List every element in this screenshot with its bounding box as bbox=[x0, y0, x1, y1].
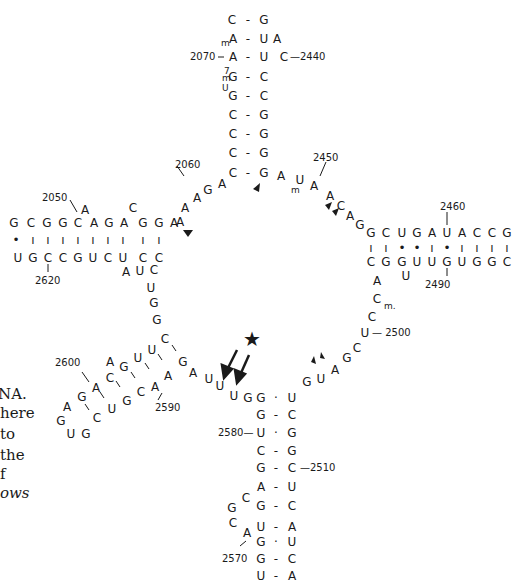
nucleotide: C bbox=[288, 500, 296, 512]
nucleotide: C bbox=[137, 386, 145, 398]
position-label: —2510 bbox=[300, 463, 335, 473]
nucleotide: G bbox=[42, 217, 51, 229]
base-pair-mark: ı bbox=[384, 242, 387, 254]
nucleotide: U bbox=[458, 256, 467, 268]
nucleotide: U bbox=[428, 256, 437, 268]
nucleotide: G bbox=[152, 314, 161, 326]
leader-2570 bbox=[240, 541, 246, 546]
base-pair-mark: - bbox=[274, 553, 278, 565]
nucleotide: G bbox=[259, 167, 268, 179]
nucleotide: C bbox=[228, 14, 236, 26]
rrna-structure-diagram: ★ CGAUAAUCGCGCCGCGCGCGAGAAAAUAACAGGCGGCA… bbox=[0, 0, 515, 586]
nucleotide: C bbox=[382, 227, 390, 239]
nucleotide: A bbox=[326, 190, 334, 202]
caption-fragment: the bbox=[0, 446, 25, 464]
modification-mark: m bbox=[291, 186, 300, 195]
nucleotide: G bbox=[256, 409, 265, 421]
triangle-marker-icon bbox=[311, 356, 316, 364]
nucleotide: U bbox=[257, 570, 266, 582]
nucleotide: C bbox=[129, 202, 137, 214]
cleavage-markers bbox=[183, 183, 339, 364]
base-pair-mark: ı bbox=[475, 242, 478, 254]
base-pair-mark: - bbox=[246, 128, 250, 140]
nucleotide: G bbox=[73, 252, 82, 264]
caption-fragment: ows bbox=[0, 484, 30, 502]
base-pair-mark: · bbox=[274, 392, 278, 404]
nucleotide: A bbox=[346, 210, 354, 222]
nucleotide: C bbox=[229, 517, 237, 529]
base-pair-mark: - bbox=[246, 51, 250, 63]
leader-2600 bbox=[82, 372, 89, 382]
nucleotide: G bbox=[397, 256, 406, 268]
position-label: 2060 bbox=[175, 160, 200, 170]
nucleotide: G bbox=[412, 227, 421, 239]
nucleotide: G bbox=[366, 227, 375, 239]
nucleotide: U bbox=[260, 51, 269, 63]
nucleotide: C bbox=[229, 128, 237, 140]
nucleotide: A bbox=[63, 401, 71, 413]
nucleotide: C bbox=[161, 333, 169, 345]
nucleotide: G bbox=[287, 427, 296, 439]
modification-mark: m. bbox=[384, 302, 396, 311]
nucleotide: G bbox=[256, 392, 265, 404]
nucleotide: G bbox=[227, 502, 236, 514]
nucleotide: G bbox=[302, 376, 311, 388]
nucleotide: C bbox=[488, 227, 496, 239]
position-label: — 2500 bbox=[372, 328, 411, 338]
nucleotide: C bbox=[59, 252, 67, 264]
nucleotide: A bbox=[288, 570, 296, 582]
nucleotide: C bbox=[473, 227, 481, 239]
base-pair-mark: ı bbox=[141, 234, 144, 246]
nucleotide: U bbox=[288, 481, 297, 493]
nucleotide: U bbox=[398, 227, 407, 239]
nucleotide: U bbox=[108, 403, 117, 415]
base-pair-mark: ı bbox=[31, 234, 34, 246]
base-pair-mark: - bbox=[274, 481, 278, 493]
nucleotide: G bbox=[28, 252, 37, 264]
nucleotide: U bbox=[205, 373, 214, 385]
nucleotide: U bbox=[147, 282, 156, 294]
nucleotide: A bbox=[122, 266, 130, 278]
base-pair-mark: ı bbox=[91, 234, 94, 246]
position-label: 2490 bbox=[425, 280, 450, 290]
nucleotide: C bbox=[27, 217, 35, 229]
position-label: 2600 bbox=[55, 358, 80, 368]
base-pair-mark: ı bbox=[460, 242, 463, 254]
nucleotide: C bbox=[229, 109, 237, 121]
nucleotide: A bbox=[257, 481, 265, 493]
nucleotide: U bbox=[136, 265, 145, 277]
nucleotide: C bbox=[288, 553, 296, 565]
nucleotide: U bbox=[361, 327, 370, 339]
nucleotide: G bbox=[81, 428, 90, 440]
nucleotide: G bbox=[472, 256, 481, 268]
nucleotide: G bbox=[203, 184, 212, 196]
nucleotide: G bbox=[287, 445, 296, 457]
nucleotide: G bbox=[259, 147, 268, 159]
nucleotide: C bbox=[104, 252, 112, 264]
base-pair-mark: - bbox=[274, 570, 278, 582]
nucleotide: A bbox=[310, 180, 318, 192]
nucleotide: G bbox=[256, 536, 265, 548]
caption-fragment: to bbox=[0, 425, 15, 443]
base-pair-mark: - bbox=[246, 14, 250, 26]
caption-fragment: NA. bbox=[0, 385, 27, 403]
nucleotide: G bbox=[243, 392, 252, 404]
caption-fragment: f bbox=[0, 465, 6, 483]
nucleotide: A bbox=[193, 192, 201, 204]
nucleotide: U bbox=[216, 380, 225, 392]
base-pair-mark: - bbox=[246, 90, 250, 102]
nucleotide: U bbox=[443, 227, 452, 239]
nucleotide: A bbox=[181, 202, 189, 214]
nucleotide: A bbox=[170, 217, 178, 229]
nucleotide: U bbox=[230, 390, 239, 402]
nucleotide: U bbox=[14, 252, 23, 264]
modification-mark: m bbox=[221, 39, 230, 48]
nucleotide: C bbox=[242, 492, 250, 504]
nucleotide: C bbox=[337, 200, 345, 212]
nucleotide: A bbox=[120, 217, 128, 229]
nucleotide: A bbox=[90, 217, 98, 229]
base-pair-mark: ı bbox=[46, 234, 49, 246]
base-pair-mark: ı bbox=[121, 234, 124, 246]
nucleotide: G bbox=[502, 227, 511, 239]
nucleotide: G bbox=[381, 256, 390, 268]
